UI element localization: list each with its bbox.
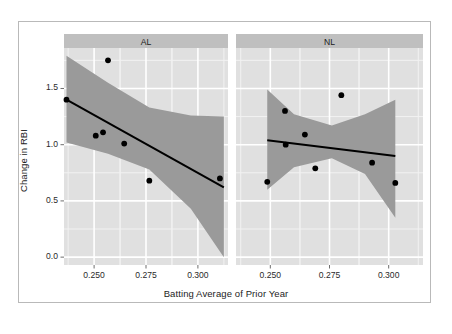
facet-panel-nl	[236, 34, 423, 269]
y-tick-label: 1.0	[14, 139, 58, 149]
facet-strip-label-al: AL	[64, 37, 228, 47]
data-point	[264, 179, 270, 185]
chart-canvas	[19, 22, 430, 302]
y-tick-label: 0.5	[14, 195, 58, 205]
plot-frame	[18, 21, 431, 303]
data-point	[338, 92, 344, 98]
x-tick-label: 0.300	[176, 270, 220, 280]
facet-panel-al	[64, 34, 228, 269]
data-point	[217, 176, 223, 182]
x-tick-label: 0.300	[367, 270, 411, 280]
data-point	[282, 108, 288, 114]
data-point	[302, 132, 308, 138]
data-point	[369, 160, 375, 166]
x-tick-label: 0.275	[124, 270, 168, 280]
data-point	[312, 165, 318, 171]
facet-strip-label-nl: NL	[236, 37, 423, 47]
y-tick-label: 1.5	[14, 82, 58, 92]
x-tick-label: 0.250	[72, 270, 116, 280]
x-tick-label: 0.275	[308, 270, 352, 280]
data-point	[146, 178, 152, 184]
x-tick-label: 0.250	[248, 270, 292, 280]
y-tick-label: 0.0	[14, 251, 58, 261]
data-point	[283, 142, 289, 148]
figure-root: Change in RBI Batting Average of Prior Y…	[0, 0, 452, 334]
data-point	[121, 141, 127, 147]
data-point	[105, 57, 111, 63]
data-point	[93, 133, 99, 139]
data-point	[64, 97, 70, 103]
data-point	[392, 180, 398, 186]
data-point	[100, 129, 106, 135]
x-axis-title: Batting Average of Prior Year	[0, 288, 452, 299]
